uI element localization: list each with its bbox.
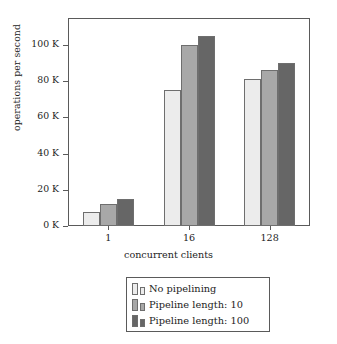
legend-swatch-icon — [140, 287, 145, 295]
bar — [181, 45, 198, 226]
legend: No pipeliningPipeline length: 10Pipeline… — [126, 277, 270, 332]
bar — [244, 79, 261, 226]
x-tick-label: 1 — [88, 232, 128, 243]
y-tick-label: 0 K — [43, 219, 59, 230]
y-tick-label: 40 K — [37, 147, 59, 158]
y-tick-mark — [63, 226, 68, 227]
bar — [83, 212, 100, 226]
bar — [100, 204, 117, 226]
y-tick-mark — [63, 154, 68, 155]
legend-swatch-icon — [140, 319, 145, 327]
y-tick: 60 K — [0, 117, 68, 118]
y-tick-label: 80 K — [37, 74, 59, 85]
legend-item: Pipeline length: 100 — [132, 313, 264, 329]
bar — [164, 90, 181, 226]
x-tick-mark — [189, 226, 190, 230]
y-tick-label: 100 K — [31, 38, 59, 49]
x-tick-label: 16 — [169, 232, 209, 243]
x-axis-title: concurrent clients — [0, 249, 337, 260]
legend-label: Pipeline length: 100 — [149, 316, 249, 326]
y-tick: 20 K — [0, 190, 68, 191]
y-axis-title: operations per second — [11, 0, 22, 158]
legend-swatch-group — [132, 314, 149, 328]
x-tick-mark — [108, 226, 109, 230]
bar — [278, 63, 295, 226]
legend-swatch-group — [132, 282, 149, 296]
y-tick: 80 K — [0, 81, 68, 82]
y-tick-mark — [63, 45, 68, 46]
legend-item: Pipeline length: 10 — [132, 297, 264, 313]
y-tick: 100 K — [0, 45, 68, 46]
legend-swatch-icon — [132, 283, 138, 295]
bar-chart-figure: operations per second 0 K20 K40 K60 K80 … — [0, 0, 337, 344]
legend-label: No pipelining — [149, 284, 216, 294]
bar — [198, 36, 215, 226]
y-tick-mark — [63, 81, 68, 82]
x-tick-mark — [270, 226, 271, 230]
x-tick-label: 128 — [250, 232, 290, 243]
bar — [261, 70, 278, 226]
legend-swatch-icon — [140, 303, 145, 311]
y-tick: 0 K — [0, 226, 68, 227]
y-tick-mark — [63, 190, 68, 191]
bar — [117, 199, 134, 226]
legend-label: Pipeline length: 10 — [149, 300, 243, 310]
legend-swatch-group — [132, 298, 149, 312]
y-tick-label: 60 K — [37, 110, 59, 121]
legend-swatch-icon — [132, 299, 138, 311]
legend-item: No pipelining — [132, 281, 264, 297]
y-tick-mark — [63, 117, 68, 118]
y-tick: 40 K — [0, 154, 68, 155]
y-tick-label: 20 K — [37, 183, 59, 194]
legend-swatch-icon — [132, 315, 138, 327]
